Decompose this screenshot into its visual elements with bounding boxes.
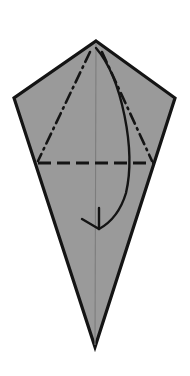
- origami-diagram: [0, 0, 190, 376]
- origami-figure-canvas: [0, 0, 190, 376]
